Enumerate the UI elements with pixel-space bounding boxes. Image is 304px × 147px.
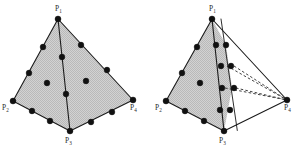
node-vertex-p1 [209,16,215,22]
node-vertex-p1 [55,16,61,22]
node-edge [59,54,65,60]
node-edge [218,63,224,69]
figure-root: P1 P2 P3 P4 [0,0,304,147]
node-edge [63,91,69,97]
vertex-label-p1: P1 [209,4,216,14]
node-vertex-p2 [163,98,169,104]
node-face [197,80,203,86]
node-edge [223,42,229,48]
node-edge [227,107,233,113]
node-edge [78,42,84,48]
vertex-label-p3: P3 [219,136,226,146]
hidden-edge-to-p4 [227,66,287,100]
hidden-edge-to-p4 [236,88,287,100]
node-edge [219,85,225,91]
vertex-label-p2: P2 [2,103,9,113]
panel-tetrahedron-right: P1 P2 P3 P4 [155,4,291,146]
node-edge [182,108,188,114]
node-edge [26,70,32,76]
node-edge [109,109,115,115]
node-edge [217,107,223,113]
right-hidden-edges [225,66,287,100]
face-front-right [58,19,133,131]
node-edge [201,118,207,124]
node-face [44,80,50,86]
node-face [83,78,89,84]
node-vertex-p2 [10,98,16,104]
node-edge [104,67,110,73]
tetrahedra-diagram: P1 P2 P3 P4 [0,0,304,147]
node-edge [231,85,237,91]
vertex-label-p4: P4 [284,103,291,113]
vertex-label-p2: P2 [155,103,162,113]
node-vertex-p3 [221,128,227,134]
node-edge [47,118,53,124]
node-edge [179,70,185,76]
node-edge [88,119,94,125]
node-edge [194,44,200,50]
vertex-label-p4: P4 [130,103,137,113]
node-edge [213,42,219,48]
node-edge [29,108,35,114]
vertex-label-p3: P3 [65,136,72,146]
vertex-label-p1: P1 [55,4,62,14]
node-edge [40,44,46,50]
node-edge [228,63,234,69]
panel-tetrahedron-left: P1 P2 P3 P4 [2,4,137,146]
node-vertex-p3 [67,128,73,134]
